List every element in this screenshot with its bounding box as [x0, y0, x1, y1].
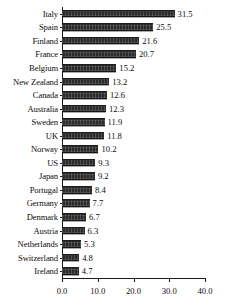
bar: [62, 145, 98, 153]
bar-value-label: 9.3: [98, 158, 109, 167]
chart-row: Canada12.6: [62, 88, 205, 102]
bar: [62, 51, 136, 59]
chart-row: Switzerland4.8: [62, 251, 205, 265]
bar-value-label: 5.3: [84, 240, 95, 249]
bar: [62, 91, 107, 99]
category-label: France: [35, 50, 58, 59]
chart-row: Belgium15.2: [62, 61, 205, 75]
bar-value-label: 10.2: [101, 145, 116, 154]
bar: [62, 186, 92, 194]
bar: [62, 200, 90, 208]
plot-area: Italy31.5Spain25.5Finland21.6France20.7B…: [62, 7, 205, 278]
category-label: Ireland: [34, 267, 58, 276]
category-label: UK: [46, 131, 58, 140]
chart-row: Sweden11.9: [62, 115, 205, 129]
x-axis-tick-label: 10.0: [90, 286, 105, 296]
chart-row: Italy31.5: [62, 7, 205, 21]
bar-value-label: 20.7: [139, 50, 154, 59]
x-axis-tick: [98, 278, 99, 282]
chart-row: Norway10.2: [62, 143, 205, 157]
x-axis-tick: [62, 278, 63, 282]
category-label: Switzerland: [18, 253, 58, 262]
bar: [62, 118, 105, 126]
bar-value-label: 11.8: [107, 131, 122, 140]
bar-value-label: 12.6: [110, 91, 125, 100]
bar: [62, 240, 81, 248]
x-axis-tick: [134, 278, 135, 282]
category-label: Australia: [27, 104, 58, 113]
chart-row: Spain25.5: [62, 21, 205, 35]
chart-row: Ireland4.7: [62, 264, 205, 278]
category-label: Sweden: [31, 118, 58, 127]
chart-row: New Zealand13.2: [62, 75, 205, 89]
category-label: Japan: [39, 172, 58, 181]
bar-value-label: 7.7: [93, 199, 104, 208]
category-label: Portugal: [30, 185, 58, 194]
bar: [62, 173, 95, 181]
chart-row: Portugal8.4: [62, 183, 205, 197]
bar-value-label: 8.4: [95, 185, 106, 194]
category-label: Germany: [27, 199, 58, 208]
bar-value-label: 6.3: [88, 226, 99, 235]
bar-value-label: 13.2: [112, 77, 127, 86]
category-label: Spain: [39, 23, 58, 32]
category-label: Austria: [33, 226, 58, 235]
bar-chart: Italy31.5Spain25.5Finland21.6France20.7B…: [0, 0, 241, 308]
bar: [62, 78, 109, 86]
category-label: Netherlands: [18, 240, 58, 249]
bar: [62, 267, 79, 275]
bar: [62, 24, 153, 32]
bar: [62, 105, 106, 113]
x-axis-tick: [169, 278, 170, 282]
category-label: Canada: [33, 91, 58, 100]
bar: [62, 159, 95, 167]
bar: [62, 64, 116, 72]
category-label: US: [47, 158, 58, 167]
chart-row: Denmark6.7: [62, 210, 205, 224]
bar: [62, 213, 86, 221]
chart-row: Finland21.6: [62, 34, 205, 48]
bar-value-label: 25.5: [156, 23, 171, 32]
bar-value-label: 4.7: [82, 267, 93, 276]
bar-value-label: 6.7: [89, 213, 100, 222]
chart-row: Germany7.7: [62, 197, 205, 211]
category-label: New Zealand: [13, 77, 58, 86]
chart-row: France20.7: [62, 48, 205, 62]
x-axis-tick-label: 30.0: [162, 286, 177, 296]
chart-row: Japan9.2: [62, 170, 205, 184]
chart-row: US9.3: [62, 156, 205, 170]
chart-row: Austria6.3: [62, 224, 205, 238]
bar: [62, 37, 139, 45]
chart-row: Netherlands5.3: [62, 237, 205, 251]
bar: [62, 10, 175, 18]
bar-value-label: 12.3: [109, 104, 124, 113]
x-axis-tick-label: 40.0: [197, 286, 212, 296]
category-label: Denmark: [27, 213, 58, 222]
category-label: Belgium: [29, 63, 58, 72]
category-label: Finland: [32, 36, 58, 45]
bar-value-label: 31.5: [178, 9, 193, 18]
category-label: Italy: [43, 9, 58, 18]
bar-value-label: 9.2: [98, 172, 109, 181]
chart-row: Australia12.3: [62, 102, 205, 116]
x-axis-tick-label: 0.0: [57, 286, 68, 296]
bar-value-label: 15.2: [119, 63, 134, 72]
bar-value-label: 4.8: [82, 253, 93, 262]
bar: [62, 227, 85, 235]
x-axis-tick: [205, 278, 206, 282]
x-axis-tick-label: 20.0: [126, 286, 141, 296]
chart-row: UK11.8: [62, 129, 205, 143]
bar-value-label: 21.6: [142, 36, 157, 45]
category-label: Norway: [31, 145, 58, 154]
bar-value-label: 11.9: [108, 118, 123, 127]
bar: [62, 132, 104, 140]
bar: [62, 254, 79, 262]
